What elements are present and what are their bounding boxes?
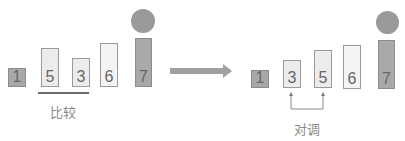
swap-label: 对调 <box>294 119 320 138</box>
swap-bracket-icon <box>0 0 405 141</box>
